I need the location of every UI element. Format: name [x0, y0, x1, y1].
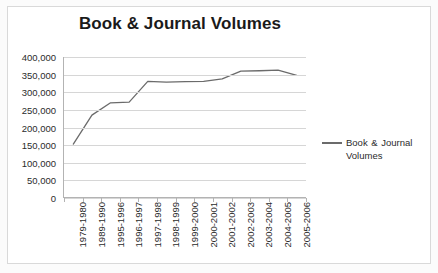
chart-legend: Book & Journal Volumes — [322, 136, 430, 162]
plot-area — [64, 57, 306, 198]
x-axis-tick-label: 2002-2003 — [245, 202, 256, 247]
x-axis-tick-label: 1995-1996 — [115, 202, 126, 247]
y-axis-tick-label: 50,000 — [27, 175, 56, 186]
gridline — [64, 163, 306, 164]
y-axis-tick-label: 150,000 — [22, 140, 56, 151]
x-axis-tick-label: 2001-2002 — [226, 202, 237, 247]
x-axis-tick-label: 1999-2000 — [189, 202, 200, 247]
x-axis-tick-label: 2000-2001 — [208, 202, 219, 247]
x-axis-tick-label: 1998-1999 — [170, 202, 181, 247]
x-axis-tick-label: 2004-2005 — [282, 202, 293, 247]
x-axis-tick-label: 1989-1990 — [96, 202, 107, 247]
gridline — [64, 128, 306, 129]
chart-container: Book & Journal Volumes 400,000350,000300… — [0, 0, 438, 273]
x-axis-tick-label: 1996-1997 — [133, 202, 144, 247]
y-axis-tick-label: 400,000 — [22, 52, 56, 63]
gridline — [64, 57, 306, 58]
y-axis-tick-label: 0 — [51, 193, 56, 204]
gridline — [64, 75, 306, 76]
y-axis-tick-label: 100,000 — [22, 157, 56, 168]
y-axis-tick-label: 250,000 — [22, 104, 56, 115]
legend-item: Book & Journal Volumes — [322, 136, 430, 162]
y-axis-tick-label: 300,000 — [22, 87, 56, 98]
gridline — [64, 180, 306, 181]
legend-item-label: Book & Journal Volumes — [346, 136, 430, 162]
x-axis-labels: 1979-19801989-19901995-19961996-19971997… — [64, 202, 306, 266]
x-axis-tick-label: 2005-2006 — [301, 202, 312, 247]
y-axis-tick-label: 200,000 — [22, 122, 56, 133]
gridline — [64, 110, 306, 111]
y-axis-labels: 400,000350,000300,000250,000200,000150,0… — [0, 57, 60, 198]
x-axis-tick-label: 2003-2004 — [263, 202, 274, 247]
gridline — [64, 145, 306, 146]
gridline — [64, 92, 306, 93]
y-axis-tick-label: 350,000 — [22, 69, 56, 80]
legend-line-swatch-icon — [322, 142, 342, 144]
x-axis-tick-label: 1979-1980 — [77, 202, 88, 247]
x-axis-tick-label: 1997-1998 — [152, 202, 163, 247]
